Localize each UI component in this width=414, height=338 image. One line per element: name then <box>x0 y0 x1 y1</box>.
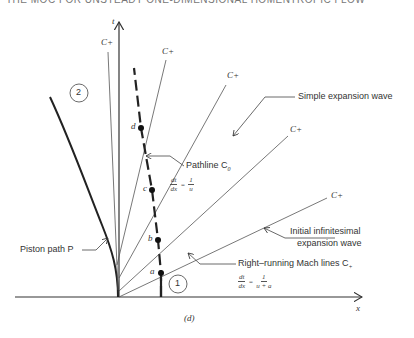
c-plus-label: C+ <box>162 46 174 56</box>
initial-wave-label-2: expansion wave <box>297 238 362 248</box>
region-1-label: 1 <box>175 278 180 288</box>
region-2-label: 2 <box>76 87 81 97</box>
pathline-equation: dtdx = 1u <box>170 176 194 193</box>
x-axis-label: x <box>356 303 360 313</box>
point-d: d <box>131 121 136 131</box>
simple-wave-label: Simple expansion wave <box>298 91 393 101</box>
pathline <box>134 68 161 297</box>
mach-lines-label: Right–running Mach lines C+ <box>238 258 353 270</box>
initial-wave-label-1: Initial infinitesimal <box>290 226 361 236</box>
point-c: c <box>143 183 147 193</box>
c-plus-label: C+ <box>331 190 343 200</box>
c-plus-label: C+ <box>101 37 113 47</box>
piston-path <box>50 97 118 297</box>
figure-caption: (d) <box>184 313 195 323</box>
piston-path-label: Piston path P <box>20 244 74 254</box>
c-plus-label: C+ <box>227 70 239 80</box>
point-a: a <box>150 266 155 276</box>
characteristics-diagram: THE MOC FOR UNSTEADY ONE-DIMENSIONAL HOM… <box>0 0 414 338</box>
t-axis-label: t <box>112 16 115 26</box>
pathline-label: Pathline C0 <box>186 160 231 172</box>
point-b: b <box>148 233 153 243</box>
mach-equation: dtdx = 1u + a <box>238 273 271 290</box>
c-plus-label: C+ <box>290 124 302 134</box>
